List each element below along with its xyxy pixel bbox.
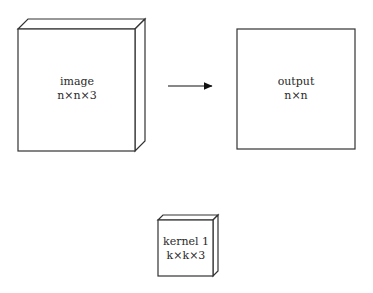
diagram-canvas: image n×n×3 output n×n kernel 1 k×k×3 <box>0 0 373 293</box>
output-label: output <box>278 75 315 88</box>
image-dims: n×n×3 <box>57 89 97 102</box>
kernel-block-front-face <box>158 220 213 276</box>
image-block-side-face <box>135 19 145 151</box>
kernel-block: kernel 1 k×k×3 <box>158 215 218 276</box>
output-block: output n×n <box>237 29 355 149</box>
kernel-dims: k×k×3 <box>167 249 206 262</box>
kernel-block-top-face <box>158 215 218 220</box>
image-block: image n×n×3 <box>18 19 145 151</box>
kernel-label: kernel 1 <box>163 235 209 248</box>
image-label: image <box>60 75 94 88</box>
image-block-top-face <box>18 19 145 29</box>
kernel-block-side-face <box>213 215 218 276</box>
output-dims: n×n <box>284 89 307 102</box>
